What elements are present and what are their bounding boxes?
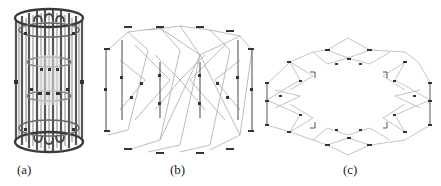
panel-b-caption: (b) <box>170 162 185 178</box>
panel-a-caption: (a) <box>17 162 31 178</box>
ring-network-diagram <box>255 0 441 160</box>
panel-c-caption: (c) <box>343 162 357 178</box>
cylinder-cage-diagram <box>0 0 100 160</box>
zigzag-lattice-diagram <box>100 0 260 160</box>
panel-b: (b) <box>100 0 260 186</box>
panel-a: (a) <box>0 0 100 186</box>
panel-c: (c) <box>255 0 441 186</box>
